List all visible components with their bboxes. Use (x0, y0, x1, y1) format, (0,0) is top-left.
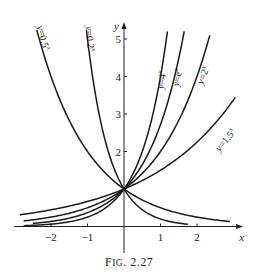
y-tick-label: 2 (116, 146, 122, 158)
y-tick-label: 5 (116, 33, 122, 45)
exponential-functions-figure: x y −2−1122345 y=0.5xy=0.2xy=4xy=exy=2xy… (0, 0, 253, 273)
x-tick-label: −2 (45, 231, 57, 243)
x-tick-label: −1 (82, 231, 94, 243)
y-tick-label: 3 (116, 108, 122, 120)
curves-group (20, 30, 235, 226)
curve-label: y=0.5x (35, 23, 54, 53)
y-axis-label: y (113, 20, 119, 32)
curve-label: y=2x (193, 63, 212, 86)
figure-caption: FIG. 2.27 (105, 255, 153, 269)
curve-label: y=0.2x (84, 24, 98, 53)
x-tick-label: 1 (158, 231, 164, 243)
curve-label: y=1.5x (211, 125, 238, 154)
curve-label: y=ex (169, 67, 185, 89)
y-axis-arrow-icon (122, 22, 127, 29)
x-axis-arrow-icon (236, 224, 243, 229)
curve-y-0.5-x (37, 30, 230, 222)
y-tick-label: 4 (116, 71, 122, 83)
ticks-group: −2−1122345 (45, 33, 200, 243)
curve-label: y=4x (154, 69, 169, 91)
curve-y-0.2-x (86, 30, 187, 225)
x-tick-label: 2 (194, 231, 200, 243)
curve-y-1.5-x (20, 97, 235, 214)
curve-y-2-x (24, 35, 210, 221)
x-axis-label: x (238, 231, 244, 243)
